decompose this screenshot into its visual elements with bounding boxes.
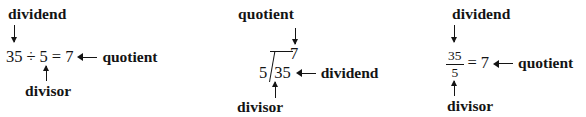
left-arrow-icon — [78, 52, 97, 63]
panel-inline-division: dividend 35÷5=7quotient divisor — [0, 0, 200, 117]
division-notation-figure: dividend 35÷5=7quotient divisor quotient… — [0, 0, 586, 117]
down-arrow-icon — [291, 28, 300, 44]
equals-operator: = — [464, 53, 481, 72]
up-arrow-icon — [271, 82, 280, 98]
label-quotient-right: quotient — [102, 48, 157, 65]
inline-division-equation: 35÷5=7quotient — [6, 48, 158, 66]
dividend-value: 35 — [6, 47, 23, 66]
divisor-value: 5 — [446, 66, 464, 80]
divisor-value: 5 — [259, 64, 267, 82]
equals-operator: = — [48, 47, 65, 66]
label-dividend-top: dividend — [8, 6, 67, 22]
label-quotient-right: quotient — [518, 54, 573, 71]
fraction: 355 — [446, 49, 464, 80]
quotient-value: 7 — [65, 47, 73, 66]
bracket-icon: 35 — [267, 64, 292, 82]
quotient-value: 7 — [481, 53, 489, 72]
dividend-value: 35 — [274, 63, 291, 82]
label-divisor-bottom: divisor — [447, 98, 493, 114]
divisor-value: 5 — [40, 47, 48, 66]
panel-long-division: quotient 7 535dividend divisor — [200, 0, 400, 117]
long-division-equation: 535dividend — [259, 64, 378, 82]
fraction-division-equation: 355=7quotient — [446, 49, 573, 80]
division-operator: ÷ — [23, 47, 40, 66]
dividend-value: 35 — [446, 49, 464, 63]
left-arrow-icon — [494, 58, 513, 69]
up-arrow-icon — [450, 81, 459, 96]
left-arrow-icon — [297, 68, 316, 79]
down-arrow-icon — [10, 25, 19, 42]
down-arrow-icon — [450, 25, 459, 42]
up-arrow-icon — [42, 66, 51, 81]
panel-fraction-division: dividend 355=7quotient divisor — [400, 0, 586, 117]
label-divisor-bottom: divisor — [25, 83, 71, 99]
label-dividend-right: dividend — [321, 64, 379, 81]
long-division-bracket: 535 — [259, 64, 292, 82]
label-divisor-bottom: divisor — [237, 99, 283, 115]
label-quotient-top: quotient — [238, 6, 294, 22]
label-dividend-top: dividend — [452, 6, 511, 22]
quotient-value: 7 — [290, 45, 298, 63]
